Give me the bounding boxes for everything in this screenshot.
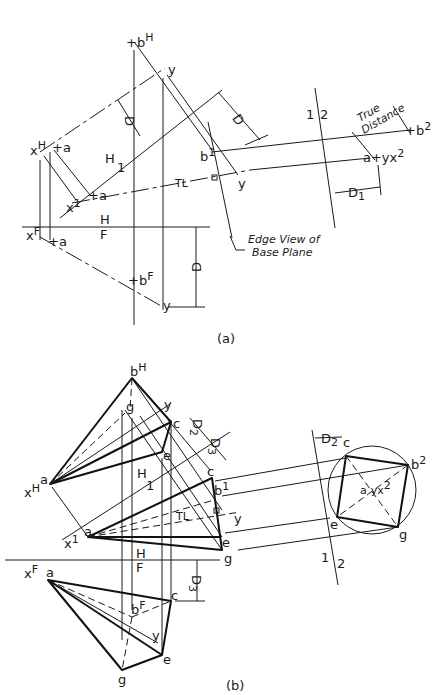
- descriptive-geometry-figure: +bH y xH +a D H 1 D b1 +a x1 TL y H F xF…: [0, 0, 446, 695]
- label-aH: +a: [52, 140, 71, 155]
- label-d3-bottom: D3: [186, 575, 204, 592]
- figure-b-labels: bH g y c e a xH D2 D3 H 1 c b1 TL y a x1…: [24, 361, 426, 693]
- label-a1: +a: [88, 188, 107, 203]
- label-plane-2: 2: [320, 107, 328, 122]
- caption-b: (b): [226, 678, 244, 693]
- projector-b1-b2: [212, 130, 410, 152]
- label-d2-right: D2: [321, 431, 338, 449]
- label-y1: y: [238, 176, 246, 191]
- label-b1: b1: [200, 146, 215, 164]
- label-yF-b: y: [152, 628, 160, 643]
- label-d-right: D: [229, 111, 247, 128]
- figure-b: [5, 378, 416, 670]
- label-plane-2-b: 2: [337, 556, 345, 571]
- label-g1: g: [224, 551, 232, 566]
- label-b2: +b2: [405, 120, 431, 138]
- edge-ac-top: [50, 422, 171, 484]
- label-h1-top: H: [105, 151, 115, 166]
- label-d2: D2: [187, 419, 205, 436]
- label-d1: D1: [348, 185, 365, 203]
- edge-ab-front: [48, 580, 132, 617]
- edge-ae-front: [48, 580, 162, 655]
- label-cF: c: [171, 588, 178, 603]
- label-bH: +bH: [126, 31, 153, 50]
- label-aH-b: a: [40, 472, 48, 487]
- label-h1-bot-b: 1: [146, 478, 154, 493]
- label-c1: c: [207, 464, 214, 479]
- label-d-bottom: D: [189, 262, 204, 272]
- label-e1: e: [222, 535, 230, 550]
- label-gF: g: [118, 672, 126, 687]
- label-plane-1-b: 1: [321, 550, 329, 565]
- caption-a: (a): [217, 331, 235, 346]
- projector-bH-b1: [135, 43, 212, 150]
- line-xy-top-b: [50, 404, 170, 484]
- right-angle-marker: [212, 175, 217, 180]
- label-x1-b: x1: [64, 533, 79, 551]
- label-tl: TL: [174, 177, 189, 190]
- label-a1-b: a: [84, 524, 92, 539]
- edge-ab-aux1: [88, 500, 214, 537]
- figure-a: [22, 43, 410, 325]
- label-xH: xH: [30, 139, 46, 158]
- label-yF: y: [163, 298, 171, 313]
- pyramid-front-outline: [48, 580, 171, 670]
- label-xF: xF: [26, 225, 40, 243]
- label-tl-b: TL: [175, 510, 190, 523]
- label-ayx2: a+yx2: [363, 147, 404, 165]
- label-aF-b: a: [46, 565, 54, 580]
- fold-line-h1: [60, 90, 222, 218]
- edge-view-leader: [230, 236, 245, 250]
- label-g2: g: [399, 527, 407, 542]
- label-x1: x1: [66, 197, 81, 215]
- label-h1-bot: 1: [117, 160, 125, 175]
- pyramid-aux1-outline: [88, 478, 222, 550]
- label-gH: g: [126, 399, 134, 414]
- label-b2-b: b2: [411, 454, 426, 472]
- label-yH: y: [168, 62, 176, 77]
- label-d-top: D: [122, 116, 137, 126]
- label-plane-1: 1: [306, 107, 314, 122]
- label-e2: e: [330, 517, 338, 532]
- label-edge-view: Edge View of: [248, 233, 322, 246]
- label-hf-bot: F: [100, 227, 107, 242]
- label-bH-b: bH: [130, 361, 147, 379]
- projector-aH-a1: [54, 150, 90, 195]
- label-y1-b: y: [234, 511, 242, 526]
- projector-c1-c2: [215, 458, 346, 481]
- label-ayx2-b: ayx2: [360, 479, 391, 497]
- projector-a1-a2: [250, 158, 370, 170]
- label-c2: c: [343, 435, 350, 450]
- label-aF: +a: [48, 234, 67, 249]
- label-hf-top: H: [100, 212, 110, 227]
- label-xF-b: xF: [24, 563, 38, 581]
- label-yH-b: y: [164, 397, 172, 412]
- projector-a-b: [52, 487, 88, 537]
- label-base-plane: Base Plane: [252, 246, 313, 259]
- label-cH: c: [173, 416, 180, 431]
- label-hf-bot-b: F: [136, 560, 143, 575]
- label-bF-b: bF: [131, 599, 146, 617]
- label-bF: +bF: [128, 270, 154, 288]
- label-hf-top-b: H: [136, 546, 146, 561]
- label-eH: e: [163, 448, 171, 463]
- label-eF: e: [163, 652, 171, 667]
- d1-ext: [378, 165, 381, 195]
- label-xH-b: xH: [24, 482, 40, 500]
- projector-g1-g2: [238, 527, 398, 550]
- projector-xH-x1: [44, 156, 76, 200]
